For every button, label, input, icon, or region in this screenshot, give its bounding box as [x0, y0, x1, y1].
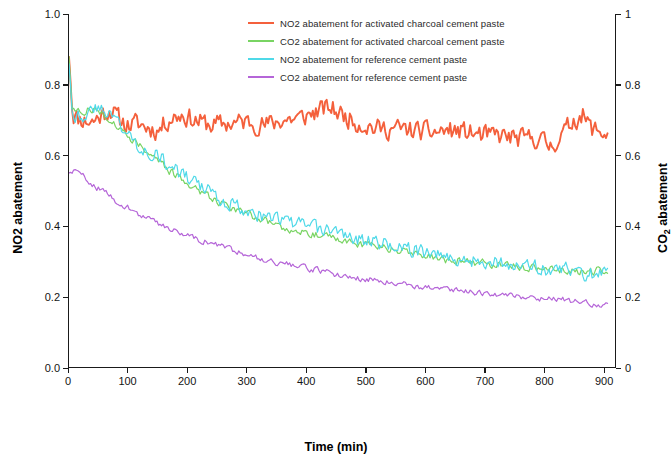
y-axis-left-tick-label: 0.4: [28, 220, 60, 232]
legend-item[interactable]: CO2 abatement for reference cement paste: [248, 68, 548, 86]
legend-color-swatch: [248, 76, 274, 79]
x-axis-tick-mark: [604, 368, 605, 373]
x-axis-title: Time (min): [305, 440, 368, 454]
y-axis-left-tick-mark: [63, 226, 68, 227]
y-axis-right-tick-label: 0.8: [625, 79, 640, 91]
x-axis-tick-mark: [484, 368, 485, 373]
legend-item[interactable]: CO2 abatement for activated charcoal cem…: [248, 32, 548, 50]
legend-label: NO2 abatement for activated charcoal cem…: [280, 18, 505, 29]
y-axis-left-tick-mark: [63, 297, 68, 298]
series-line: [69, 57, 608, 276]
x-axis-tick-mark: [246, 368, 247, 373]
x-axis-tick-label: 200: [178, 375, 196, 387]
x-axis-tick-label: 500: [357, 375, 375, 387]
x-axis-tick-mark: [127, 368, 128, 373]
y-axis-right-tick-mark: [616, 297, 621, 298]
y-axis-left-tick-label: 0.0: [28, 362, 60, 374]
y-axis-left-tick-mark: [63, 14, 68, 15]
y-axis-left-tick-label: 0.2: [28, 291, 60, 303]
legend-color-swatch: [248, 58, 274, 61]
y-axis-right-title-tail: abatement: [656, 163, 670, 229]
x-axis-tick-mark: [544, 368, 545, 373]
y-axis-left-tick-label: 1.0: [28, 8, 60, 20]
y-axis-right-tick-mark: [616, 84, 621, 85]
chart-legend: NO2 abatement for activated charcoal cem…: [248, 14, 548, 86]
legend-item[interactable]: NO2 abatement for reference cement paste: [248, 50, 548, 68]
x-axis-tick-label: 900: [595, 375, 613, 387]
y-axis-left-title: NO2 abatement: [11, 128, 25, 288]
legend-item[interactable]: NO2 abatement for activated charcoal cem…: [248, 14, 548, 32]
y-axis-right-tick-mark: [616, 155, 621, 156]
x-axis-tick-label: 300: [238, 375, 256, 387]
legend-color-swatch: [248, 40, 274, 43]
y-axis-left-tick-label: 0.6: [28, 150, 60, 162]
series-line: [69, 64, 608, 281]
y-axis-right-tick-mark: [616, 14, 621, 15]
x-axis-tick-label: 600: [416, 375, 434, 387]
y-axis-left-tick-label: 0.8: [28, 79, 60, 91]
y-axis-right-tick-mark: [616, 226, 621, 227]
x-axis-tick-label: 400: [297, 375, 315, 387]
x-axis-tick-label: 100: [118, 375, 136, 387]
y-axis-right-title-main: CO: [656, 234, 670, 253]
y-axis-right-tick-mark: [616, 368, 621, 369]
y-axis-right-title-subscript: 2: [662, 229, 672, 234]
legend-color-swatch: [248, 22, 274, 25]
legend-label: CO2 abatement for reference cement paste: [280, 72, 467, 83]
x-axis-tick-mark: [425, 368, 426, 373]
y-axis-left-tick-mark: [63, 155, 68, 156]
y-axis-right-title: CO2 abatement: [656, 128, 672, 288]
y-axis-right-tick-label: 0.2: [625, 291, 640, 303]
x-axis-tick-mark: [365, 368, 366, 373]
y-axis-right-tick-label: 0: [625, 362, 631, 374]
x-axis-tick-label: 800: [535, 375, 553, 387]
y-axis-left-tick-mark: [63, 84, 68, 85]
x-axis-tick-mark: [306, 368, 307, 373]
legend-label: CO2 abatement for activated charcoal cem…: [280, 36, 505, 47]
x-axis-tick-mark: [68, 368, 69, 373]
x-axis-tick-label: 700: [476, 375, 494, 387]
x-axis-tick-mark: [187, 368, 188, 373]
x-axis-tick-label: 0: [65, 375, 71, 387]
y-axis-right-tick-label: 0.4: [625, 220, 640, 232]
y-axis-right-tick-label: 1: [625, 8, 631, 20]
y-axis-right-tick-label: 0.6: [625, 150, 640, 162]
legend-label: NO2 abatement for reference cement paste: [280, 54, 467, 65]
